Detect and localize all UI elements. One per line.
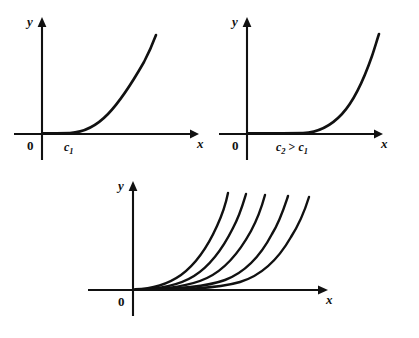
panel3-y-axis-arrow	[129, 181, 138, 191]
panel1-curve	[43, 35, 156, 133]
panel-top-right: y x 0 c2>c1	[219, 14, 388, 160]
panel2-y-label: y	[230, 14, 238, 29]
panel1-y-label: y	[25, 14, 33, 29]
panel1-origin-label: 0	[27, 138, 34, 153]
panel2-y-axis-arrow	[243, 17, 252, 27]
panel2-curve	[248, 34, 379, 133]
panel1-intercept-label: c1	[64, 140, 74, 156]
panel3-x-label: x	[325, 292, 333, 307]
panel3-curve-2	[136, 194, 246, 289]
panel1-x-label: x	[196, 136, 204, 151]
panel3-y-label: y	[116, 178, 124, 193]
panel-bottom: y x 0	[88, 178, 333, 316]
panel2-origin-label: 0	[232, 138, 239, 153]
panel2-intercept-label: c2>c1	[276, 140, 308, 156]
figure-root: y x 0 c1 y x 0 c2>c1	[0, 0, 419, 338]
panel1-y-axis-arrow	[38, 17, 47, 27]
figure-canvas: y x 0 c1 y x 0 c2>c1	[0, 0, 419, 338]
panel3-origin-label: 0	[118, 294, 125, 309]
panel3-curve-3	[137, 195, 265, 290]
panel2-x-label: x	[380, 136, 388, 151]
panel-top-left: y x 0 c1	[14, 14, 204, 160]
